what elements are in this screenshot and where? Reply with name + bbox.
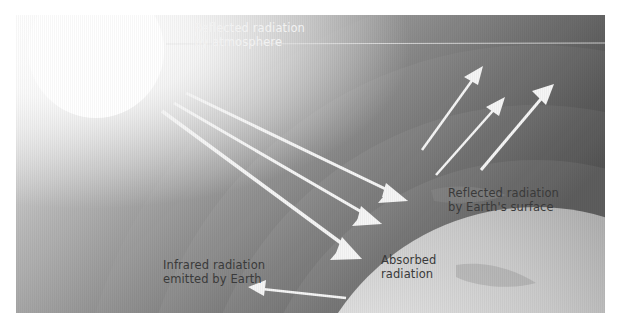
label-line: by Earth's surface <box>448 200 559 214</box>
diagram-canvas <box>16 15 605 313</box>
label-line: radiation <box>381 267 436 281</box>
label-line: by atmosphere <box>194 35 305 49</box>
label-infrared: Infrared radiation emitted by Earth <box>163 258 265 286</box>
radiation-diagram: Reflected radiation by atmosphere Reflec… <box>16 15 605 313</box>
label-line: emitted by Earth <box>163 272 265 286</box>
label-line: Reflected radiation <box>194 21 305 35</box>
label-reflected-surface: Reflected radiation by Earth's surface <box>448 186 559 214</box>
label-line: Reflected radiation <box>448 186 559 200</box>
label-absorbed: Absorbed radiation <box>381 253 436 281</box>
label-reflected-atmosphere: Reflected radiation by atmosphere <box>194 21 305 49</box>
label-line: Infrared radiation <box>163 258 265 272</box>
label-line: Absorbed <box>381 253 436 267</box>
